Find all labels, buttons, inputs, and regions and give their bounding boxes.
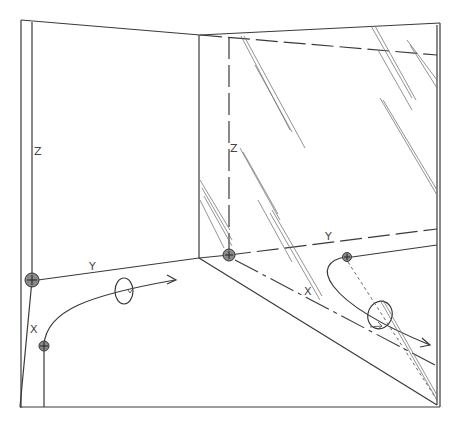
glass-glare: [200, 26, 437, 400]
origin-marker-icon: [223, 249, 235, 261]
x-axis-label: X: [30, 323, 38, 336]
x-axis-label: X: [304, 285, 312, 298]
point-marker-icon: [39, 341, 49, 351]
point-marker-icon: [343, 253, 352, 262]
origin-marker-icon: [25, 273, 39, 287]
z-axis-label: Z: [34, 145, 42, 158]
axis-diagram: Z Y X: [0, 0, 459, 426]
left-view: Z Y X: [20, 20, 440, 408]
z-axis-label: Z: [230, 142, 238, 155]
right-view: Z Y X: [199, 23, 440, 407]
y-axis-label: Y: [324, 230, 332, 243]
y-axis-label: Y: [88, 260, 96, 273]
